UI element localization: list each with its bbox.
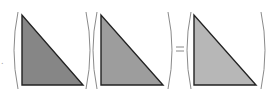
right-paren-1	[86, 12, 90, 89]
right-paren-3	[261, 12, 265, 89]
left-paren-2	[93, 12, 97, 89]
right-paren-2	[168, 12, 172, 89]
triangle-1	[22, 15, 83, 85]
term-1	[14, 12, 90, 89]
triangle-3	[194, 15, 256, 85]
left-paren-3	[187, 12, 191, 89]
triangle-equation-diagram: .	[0, 0, 273, 92]
equals-sign	[176, 47, 184, 51]
term-2	[93, 12, 172, 89]
triangle-2	[101, 15, 163, 85]
term-3	[187, 12, 265, 89]
stray-mark: .	[1, 57, 4, 66]
left-paren-1	[14, 12, 18, 89]
